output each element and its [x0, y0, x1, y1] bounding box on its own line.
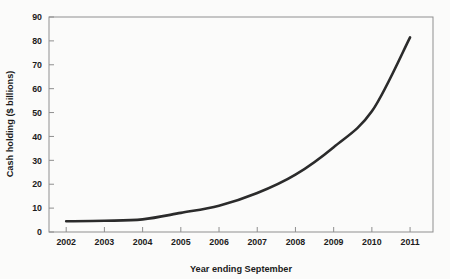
x-tick-label: 2003	[95, 237, 115, 247]
y-tick-label: 90	[32, 12, 42, 22]
x-tick-label: 2008	[286, 237, 306, 247]
y-tick-label: 40	[32, 132, 42, 142]
x-tick-label: 2004	[133, 237, 153, 247]
x-tick-label: 2005	[171, 237, 191, 247]
y-tick-label: 70	[32, 60, 42, 70]
x-tick-label: 2010	[362, 237, 382, 247]
line-chart-figure: 0102030405060708090 20022003200420052006…	[0, 0, 450, 279]
y-tick-label: 20	[32, 179, 42, 189]
x-tick-label: 2011	[401, 237, 420, 247]
y-tick-label: 10	[32, 203, 42, 213]
y-tick-label: 30	[32, 156, 42, 166]
y-tick-label: 50	[32, 108, 42, 118]
y-axis-title: Cash holding ($ billions)	[5, 71, 15, 178]
x-tick-label: 2007	[247, 237, 267, 247]
y-tick-label: 0	[37, 227, 42, 237]
x-tick-label: 2006	[209, 237, 229, 247]
y-tick-label: 60	[32, 84, 42, 94]
y-tick-label: 80	[32, 36, 42, 46]
x-axis-title: Year ending September	[190, 264, 293, 274]
x-tick-label: 2002	[56, 237, 76, 247]
x-tick-label: 2009	[324, 237, 344, 247]
